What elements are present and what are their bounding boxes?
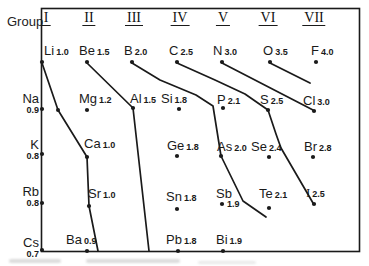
data-point-Si bbox=[177, 107, 181, 111]
data-point-Bi bbox=[221, 249, 225, 253]
element-label-As: As2.0 bbox=[217, 140, 247, 153]
element-symbol-Rb: Rb bbox=[22, 186, 39, 198]
data-point-Ba bbox=[85, 249, 89, 253]
data-point-Rb bbox=[40, 201, 44, 205]
element-value-Ge: 1.8 bbox=[186, 143, 199, 152]
element-symbol-Ge: Ge bbox=[167, 139, 184, 152]
element-label-C: C2.5 bbox=[169, 44, 193, 57]
element-value-F: 4.0 bbox=[321, 48, 334, 57]
element-label-P: P2.1 bbox=[217, 93, 240, 106]
element-value-Li: 1.0 bbox=[56, 48, 69, 57]
element-value-Cl: 3.0 bbox=[317, 98, 330, 107]
element-symbol-Bi: Bi bbox=[216, 233, 228, 246]
element-symbol-O: O bbox=[263, 44, 273, 57]
element-symbol-Ba: Ba bbox=[66, 233, 82, 246]
element-symbol-Ca: Ca bbox=[84, 137, 101, 150]
element-value-C: 2.5 bbox=[180, 48, 193, 57]
element-symbol-N: N bbox=[213, 44, 222, 57]
element-value-Pb: 1.8 bbox=[184, 237, 197, 246]
element-label-Ge: Ge1.8 bbox=[167, 139, 199, 152]
data-point-Be bbox=[85, 60, 89, 64]
element-value-Mg: 1.2 bbox=[99, 96, 112, 105]
element-symbol-I: I bbox=[306, 186, 310, 199]
scan-artifact bbox=[198, 261, 256, 264]
data-point-Ge bbox=[175, 154, 179, 158]
data-point-interpolated bbox=[56, 108, 60, 112]
data-point-Sn bbox=[175, 207, 179, 211]
data-point-Pb bbox=[176, 249, 180, 253]
data-point-Se bbox=[267, 155, 271, 159]
data-point-C bbox=[175, 60, 179, 64]
element-label-Ba: Ba0.9 bbox=[66, 233, 96, 246]
scan-artifact bbox=[9, 259, 61, 263]
element-label-Bi: Bi1.9 bbox=[216, 233, 242, 246]
element-value-Br: 2.8 bbox=[319, 144, 332, 153]
element-value-Be: 1.5 bbox=[97, 48, 110, 57]
element-label-Sr: Sr1.0 bbox=[88, 187, 116, 200]
data-point-Cs bbox=[40, 248, 44, 252]
element-symbol-Se: Se bbox=[251, 140, 267, 153]
data-point-Ca bbox=[85, 155, 89, 159]
element-value-O: 3.5 bbox=[275, 48, 288, 57]
electronegativity-figure: Group IIIIIIIVVVIVII Li1.0Be1.5B2.0C2.5N… bbox=[0, 0, 369, 266]
element-symbol-Li: Li bbox=[44, 44, 54, 57]
element-label-Cl: Cl3.0 bbox=[303, 94, 330, 107]
data-point-Li bbox=[40, 60, 44, 64]
plot-canvas bbox=[0, 0, 369, 266]
element-symbol-Cs: Cs bbox=[23, 237, 39, 249]
element-label-Be: Be1.5 bbox=[79, 44, 109, 57]
element-value-P: 2.1 bbox=[228, 97, 241, 106]
element-symbol-Si: Si bbox=[161, 92, 173, 105]
data-point-N bbox=[220, 60, 224, 64]
data-point-Mg bbox=[85, 108, 89, 112]
element-label-B: B2.0 bbox=[124, 44, 147, 57]
element-symbol-As: As bbox=[217, 140, 232, 153]
data-point-S bbox=[266, 108, 270, 112]
element-label-Na: Na0.9 bbox=[22, 93, 39, 115]
element-label-Br: Br2.8 bbox=[304, 140, 332, 153]
element-symbol-Te: Te bbox=[259, 187, 273, 200]
element-symbol-Al: Al bbox=[130, 92, 142, 105]
element-value-Na: 0.9 bbox=[22, 105, 39, 115]
element-label-S: S2.5 bbox=[260, 93, 283, 106]
element-value-Sn: 1.8 bbox=[184, 194, 197, 203]
element-symbol-B: B bbox=[124, 44, 133, 57]
element-label-Ca: Ca1.0 bbox=[84, 137, 115, 150]
element-value-Ca: 1.0 bbox=[103, 141, 116, 150]
data-point-Sr bbox=[87, 204, 91, 208]
element-symbol-Br: Br bbox=[304, 140, 317, 153]
element-label-Sn: Sn1.8 bbox=[166, 190, 196, 203]
element-value-Sr: 1.0 bbox=[103, 191, 116, 200]
element-value-Al: 1.5 bbox=[144, 96, 157, 105]
element-symbol-Cl: Cl bbox=[303, 94, 315, 107]
element-label-I: I2.5 bbox=[306, 186, 325, 199]
iso-line-2.5 bbox=[177, 63, 313, 203]
element-label-Te: Te2.1 bbox=[259, 187, 287, 200]
element-symbol-K: K bbox=[26, 139, 39, 151]
data-point-Sb bbox=[220, 202, 224, 206]
element-label-F: F4.0 bbox=[311, 44, 333, 57]
element-symbol-Pb: Pb bbox=[166, 233, 182, 246]
element-label-Pb: Pb1.8 bbox=[166, 233, 196, 246]
element-value-Sb: 1.9 bbox=[227, 199, 240, 209]
data-point-K bbox=[40, 152, 44, 156]
element-value-I: 2.5 bbox=[312, 190, 325, 199]
scan-artifact bbox=[86, 259, 180, 263]
element-label-Se: Se2.4 bbox=[251, 140, 281, 153]
element-symbol-Be: Be bbox=[79, 44, 95, 57]
data-point-F bbox=[314, 60, 318, 64]
element-value-Cs: 0.7 bbox=[23, 249, 39, 259]
element-value-N: 3.0 bbox=[224, 48, 237, 57]
element-value-As: 2.0 bbox=[234, 144, 247, 153]
element-symbol-Mg: Mg bbox=[79, 92, 97, 105]
element-symbol-S: S bbox=[260, 93, 269, 106]
data-point-Al bbox=[131, 106, 135, 110]
data-point-Te bbox=[267, 206, 271, 210]
element-value-Se: 2.4 bbox=[269, 144, 282, 153]
element-value-Ba: 0.9 bbox=[84, 237, 97, 246]
element-symbol-C: C bbox=[169, 44, 178, 57]
data-point-Cl bbox=[312, 109, 316, 113]
data-point-Na bbox=[40, 107, 44, 111]
data-point-O bbox=[268, 60, 272, 64]
element-value-S: 2.5 bbox=[271, 97, 284, 106]
